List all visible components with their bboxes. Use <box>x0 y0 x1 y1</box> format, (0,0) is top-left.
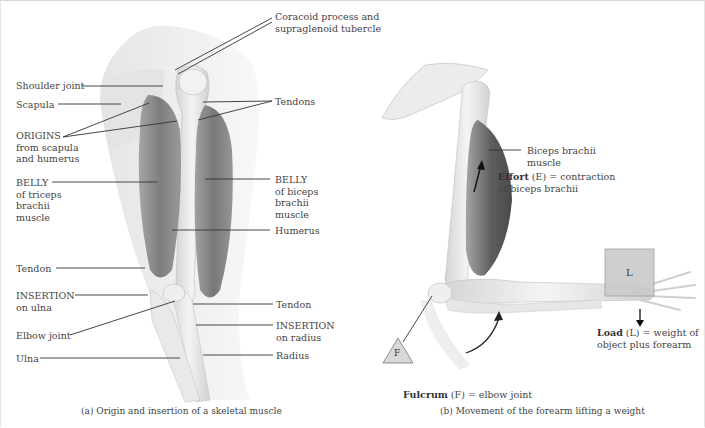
label-scapula: Scapula <box>16 99 54 111</box>
label-fulcrum: Fulcrum (F) = elbow joint <box>403 389 532 401</box>
label-biceps-brachii: Biceps brachii muscle <box>527 145 596 168</box>
label-insertion-radius: INSERTION on radius <box>276 320 335 343</box>
label-origins: ORIGINS from scapula and humerus <box>16 130 79 165</box>
label-effort: Effort (E) = contraction of biceps brach… <box>498 171 615 194</box>
rotation-arrow-icon <box>466 318 499 353</box>
label-belly-triceps: BELLY of triceps brachii muscle <box>16 177 62 223</box>
label-humerus: Humerus <box>275 225 320 237</box>
label-coracoid-process: Coracoid process and supraglenoid tuberc… <box>275 11 381 34</box>
label-insertion-ulna: INSERTION on ulna <box>16 290 75 313</box>
caption-panel-a: (a) Origin and insertion of a skeletal m… <box>81 406 282 416</box>
arm-illustration-b <box>382 63 695 370</box>
label-tendon-left: Tendon <box>16 263 51 275</box>
label-tendons: Tendons <box>275 96 315 108</box>
label-shoulder-joint: Shoulder joint <box>16 80 84 92</box>
label-tendon-right: Tendon <box>276 299 311 311</box>
label-ulna: Ulna <box>16 353 39 365</box>
label-load: Load (L) = weight of object plus forearm <box>597 327 699 350</box>
load-box-label: L <box>626 267 633 278</box>
anatomy-illustration <box>0 0 705 428</box>
arm-silhouette-a <box>100 26 259 403</box>
label-elbow-joint: Elbow joint <box>16 330 71 342</box>
label-belly-biceps: BELLY of biceps brachii muscle <box>275 174 318 220</box>
fulcrum-triangle-label: F <box>394 348 400 358</box>
caption-panel-b: (b) Movement of the forearm lifting a we… <box>440 406 645 416</box>
label-radius: Radius <box>276 350 309 362</box>
